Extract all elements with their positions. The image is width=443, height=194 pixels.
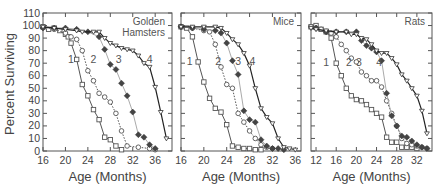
- data-point: [135, 132, 141, 138]
- data-point: [241, 108, 247, 114]
- data-point: [414, 94, 419, 98]
- data-point: [247, 146, 251, 150]
- x-axis-title: Age (Months): [332, 169, 410, 184]
- data-point: [400, 145, 404, 149]
- data-point: [236, 145, 240, 149]
- data-point: [359, 70, 364, 75]
- data-point: [91, 107, 95, 111]
- data-point: [344, 48, 349, 53]
- data-point: [374, 111, 378, 115]
- curve-label: 3: [116, 53, 122, 65]
- y-tick-label: 90: [28, 32, 40, 44]
- data-point: [136, 145, 141, 150]
- data-point: [384, 90, 390, 96]
- data-point: [236, 111, 241, 116]
- data-point: [74, 37, 79, 42]
- data-point: [230, 86, 235, 91]
- x-tick-label: 32: [267, 154, 279, 166]
- data-point: [69, 41, 73, 45]
- data-point: [339, 42, 344, 47]
- data-point: [253, 87, 258, 91]
- x-tick-label: 32: [411, 154, 423, 166]
- data-point: [369, 107, 373, 111]
- x-tick-label: 36: [289, 154, 301, 166]
- curve-label: 1: [323, 56, 329, 68]
- data-point: [213, 106, 217, 110]
- data-point: [394, 63, 399, 67]
- x-tick-label: 28: [104, 154, 116, 166]
- curve-label: 2: [215, 55, 221, 67]
- data-point: [235, 71, 241, 77]
- data-point: [224, 82, 229, 87]
- data-point: [225, 122, 229, 126]
- x-tick-label: 16: [175, 154, 187, 166]
- series-line: [43, 27, 155, 150]
- y-tick-label: 30: [28, 107, 40, 119]
- data-point: [259, 142, 264, 147]
- data-point: [252, 119, 258, 125]
- data-point: [97, 91, 102, 96]
- data-point: [213, 42, 218, 47]
- x-tick-label: 24: [371, 154, 383, 166]
- x-axis-title: Age (Months): [68, 169, 146, 184]
- data-point: [369, 78, 374, 83]
- data-point: [339, 74, 343, 78]
- curve-label: 2: [91, 53, 97, 65]
- y-tick-label: 80: [28, 44, 40, 56]
- data-point: [91, 78, 96, 83]
- data-point: [247, 129, 252, 134]
- data-point: [344, 86, 348, 90]
- data-point: [102, 46, 108, 52]
- curve-label: 4: [376, 56, 382, 68]
- series-3: 3: [40, 25, 158, 151]
- data-point: [334, 61, 338, 65]
- data-point: [242, 120, 247, 125]
- data-point: [420, 109, 425, 113]
- data-point: [359, 99, 363, 103]
- data-point: [114, 111, 119, 116]
- data-point: [242, 146, 246, 150]
- data-point: [130, 109, 136, 115]
- x-tick-label: 24: [82, 154, 94, 166]
- data-point: [102, 95, 107, 100]
- panel-0: 0102030405060708090100110162024283236Age…: [22, 7, 172, 185]
- curve-label: 4: [147, 53, 153, 65]
- panel-2: 121620242832Age (Months)Rats1234: [309, 13, 432, 184]
- panel-1: 162024283236Age (Months)Mice1234: [175, 13, 301, 184]
- x-tick-label: 32: [127, 154, 139, 166]
- data-point: [334, 35, 339, 40]
- x-tick-label: 16: [37, 154, 49, 166]
- data-point: [125, 144, 130, 149]
- curve-label: 2: [346, 56, 352, 68]
- series-2: 2: [41, 25, 158, 153]
- data-point: [86, 94, 90, 98]
- data-point: [354, 97, 358, 101]
- data-point: [329, 36, 333, 40]
- data-point: [190, 35, 194, 39]
- x-tick-label: 36: [149, 154, 161, 166]
- data-point: [119, 148, 123, 152]
- panel-title: Mice: [273, 16, 295, 27]
- y-tick-label: 60: [28, 69, 40, 81]
- data-point: [404, 141, 409, 146]
- data-point: [219, 110, 223, 114]
- series-4: 4: [179, 25, 298, 152]
- y-tick-label: 40: [28, 94, 40, 106]
- y-tick-label: 70: [28, 57, 40, 69]
- data-point: [247, 117, 253, 123]
- data-point: [293, 148, 298, 152]
- panels-group: 0102030405060708090100110162024283236Age…: [22, 7, 432, 185]
- data-point: [97, 117, 101, 121]
- data-point: [364, 102, 368, 106]
- y-axis-title: Percent Surviving: [2, 33, 17, 135]
- y-tick-label: 110: [23, 7, 40, 19]
- y-tick-label: 50: [28, 82, 40, 94]
- x-tick-label: 28: [244, 154, 256, 166]
- y-tick-label: 10: [28, 132, 40, 144]
- data-point: [230, 144, 234, 148]
- series-line: [311, 26, 417, 149]
- x-tick-label: 28: [391, 154, 403, 166]
- data-point: [389, 140, 393, 144]
- data-point: [102, 135, 106, 139]
- series-line: [43, 27, 166, 139]
